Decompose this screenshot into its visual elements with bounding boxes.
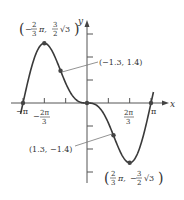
point-marker <box>127 161 131 165</box>
svg-text:): ) <box>158 170 163 186</box>
svg-text:π,: π, <box>38 25 47 34</box>
svg-text:−: − <box>130 174 137 183</box>
point-marker <box>85 101 89 105</box>
svg-text:3: 3 <box>111 179 115 187</box>
tick-label-pi: π <box>151 107 156 116</box>
svg-text:): ) <box>74 21 79 37</box>
tick-label-neg-2pi3-sign: − <box>33 112 40 121</box>
point-marker <box>149 101 153 105</box>
tick-label-2pi3-den: 3 <box>126 118 130 126</box>
x-axis-arrow-icon <box>162 101 169 106</box>
tick-label-2pi3-num: 2π <box>124 109 133 117</box>
label-inflection-left: (−1.3, 1.4) <box>99 58 142 67</box>
svg-text:2: 2 <box>32 21 36 29</box>
point-marker <box>21 101 25 105</box>
leader-line-right <box>75 134 112 146</box>
x-axis-label: x <box>170 99 175 109</box>
svg-text:−: − <box>25 25 32 34</box>
leader-line-left <box>62 62 98 72</box>
svg-text:2: 2 <box>137 179 141 187</box>
tick-label-neg-pi: −π <box>16 107 28 116</box>
label-minimum: ( 2 3 π, − 3 2 √3 ) <box>104 170 163 187</box>
svg-text:2: 2 <box>53 30 57 38</box>
tick-label-neg-2pi3-num: 2π <box>40 109 49 117</box>
svg-text:π,: π, <box>117 174 126 183</box>
svg-text:3: 3 <box>53 21 57 29</box>
svg-text:3: 3 <box>137 170 141 178</box>
y-axis-arrow-icon <box>85 20 90 27</box>
svg-text:(: ( <box>19 21 24 37</box>
point-marker <box>58 69 62 73</box>
label-maximum: ( − 2 3 π, 3 2 √3 ) <box>19 21 79 38</box>
point-marker <box>42 41 46 45</box>
svg-text:√3: √3 <box>60 25 70 34</box>
svg-text:√3: √3 <box>144 174 154 183</box>
svg-text:2: 2 <box>111 170 115 178</box>
axes <box>11 20 169 183</box>
svg-text:3: 3 <box>32 30 36 38</box>
function-graph: x y −π π − 2π 3 2π 3 (−1.3, 1.4) (1.3, −… <box>0 0 184 200</box>
tick-label-neg-2pi3-den: 3 <box>42 118 46 126</box>
svg-text:(: ( <box>104 170 109 186</box>
label-inflection-right: (1.3, −1.4) <box>29 145 72 154</box>
point-marker <box>111 133 115 137</box>
